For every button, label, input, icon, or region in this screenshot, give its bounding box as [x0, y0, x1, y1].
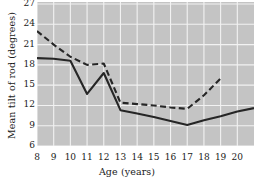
- chart-container: Mean tilt of rod (degrees) 6912151821242…: [0, 0, 254, 183]
- y-tick-label: 12: [15, 100, 35, 109]
- x-tick-label: 14: [131, 153, 142, 162]
- plot-area: [37, 2, 254, 146]
- x-tick-label: 19: [215, 153, 226, 162]
- x-tick-label: 16: [165, 153, 176, 162]
- x-tick-label: 20: [232, 153, 243, 162]
- x-tick-label: 8: [34, 153, 40, 162]
- x-tick-label: 9: [51, 153, 57, 162]
- x-tick-label: 12: [98, 153, 109, 162]
- x-tick-label: 13: [115, 153, 126, 162]
- y-tick-label: 27: [15, 0, 35, 8]
- x-tick-label: 11: [81, 153, 92, 162]
- plot-background: [37, 2, 254, 146]
- y-tick-label: 18: [15, 60, 35, 69]
- y-tick-label: 24: [15, 19, 35, 28]
- y-tick-label: 21: [15, 40, 35, 49]
- x-axis-label: Age (years): [0, 166, 254, 177]
- x-tick-label: 18: [198, 153, 209, 162]
- y-tick-label: 9: [15, 121, 35, 130]
- y-tick-label: 15: [15, 80, 35, 89]
- x-tick-label: 10: [65, 153, 76, 162]
- x-tick-label: 17: [181, 153, 192, 162]
- y-tick-label: 6: [15, 141, 35, 150]
- plot-svg: [37, 2, 254, 146]
- x-axis-label-text: Age (years): [99, 166, 155, 177]
- x-axis-tick-labels: 891011121314151617181920: [0, 150, 254, 164]
- x-tick-label: 15: [148, 153, 159, 162]
